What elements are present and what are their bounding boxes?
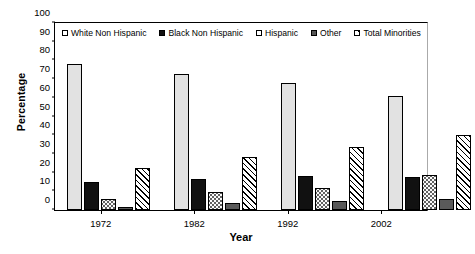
y-tick-label: 70 — [39, 63, 55, 74]
legend-item[interactable]: Total Minorities — [354, 28, 420, 38]
bar-group — [269, 23, 376, 210]
bar — [208, 192, 223, 210]
legend-label: Hispanic — [265, 28, 298, 38]
y-tick-label: 100 — [34, 7, 55, 18]
legend-item[interactable]: Black Non Hispanic — [159, 28, 243, 38]
bar — [315, 188, 330, 210]
x-tick-mark — [381, 211, 382, 214]
x-axis-title: Year — [54, 231, 428, 243]
bar — [281, 83, 296, 210]
y-axis-title: Percentage — [15, 37, 27, 167]
plot-area: 0102030405060708090100 — [54, 22, 428, 211]
y-tick-label: 60 — [39, 81, 55, 92]
bar — [135, 168, 150, 210]
legend-item[interactable]: Hispanic — [256, 28, 298, 38]
legend-label: Other — [320, 28, 342, 38]
y-tick-label: 40 — [39, 119, 55, 130]
bar — [405, 177, 420, 210]
bar — [225, 203, 240, 210]
bar-group — [162, 23, 269, 210]
legend-swatch-icon — [354, 30, 360, 36]
bar — [349, 147, 364, 210]
y-tick-label: 30 — [39, 137, 55, 148]
x-tick-mark — [194, 211, 195, 214]
y-tick-label: 50 — [39, 100, 55, 111]
bar — [456, 135, 471, 210]
x-tick-mark — [288, 211, 289, 214]
legend-swatch-icon — [62, 30, 68, 36]
legend-label: Black Non Hispanic — [168, 28, 243, 38]
bar — [191, 179, 206, 210]
legend-swatch-icon — [256, 30, 262, 36]
bar-group — [55, 23, 162, 210]
x-tick-mark — [101, 211, 102, 214]
y-tick-label: 20 — [39, 156, 55, 167]
x-tick-label: 1992 — [241, 211, 335, 231]
y-tick-label: 0 — [45, 194, 55, 205]
bar — [298, 176, 313, 210]
legend-item[interactable]: White Non Hispanic — [62, 28, 146, 38]
x-axis-ticks: 1972198219922002 — [54, 211, 428, 231]
bar — [242, 157, 257, 210]
x-tick-label: 1982 — [148, 211, 242, 231]
bar — [439, 199, 454, 210]
legend-label: White Non Hispanic — [71, 28, 146, 38]
legend-item[interactable]: Other — [311, 28, 342, 38]
bar — [67, 64, 82, 210]
bar-groups — [55, 23, 427, 210]
bar — [332, 201, 347, 210]
legend-swatch-icon — [159, 30, 165, 36]
y-tick-label: 10 — [39, 175, 55, 186]
x-tick-label: 1972 — [54, 211, 148, 231]
legend-label: Total Minorities — [363, 28, 420, 38]
chart-legend: White Non HispanicBlack Non HispanicHisp… — [62, 28, 421, 38]
y-tick-label: 80 — [39, 44, 55, 55]
y-tick-label: 90 — [39, 25, 55, 36]
bar — [84, 182, 99, 210]
legend-swatch-icon — [311, 30, 317, 36]
bar-group — [376, 23, 475, 210]
bar — [118, 207, 133, 210]
bar — [101, 199, 116, 210]
bar — [174, 74, 189, 211]
x-tick-label: 2002 — [335, 211, 429, 231]
bar — [422, 175, 437, 210]
bar — [388, 96, 403, 210]
